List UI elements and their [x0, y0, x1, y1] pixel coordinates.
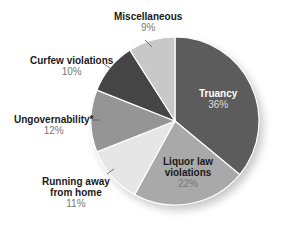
label-running-away: Running awayfrom home11% [42, 176, 110, 209]
label-miscellaneous: Miscellaneous9% [114, 11, 182, 33]
label-truancy: Truancy36% [199, 88, 237, 110]
label-curfew-violations: Curfew violations10% [30, 55, 113, 77]
label-liquor-law-violations: Liquor lawviolations22% [163, 156, 213, 189]
label-ungovernability: Ungovernability*12% [14, 114, 93, 136]
